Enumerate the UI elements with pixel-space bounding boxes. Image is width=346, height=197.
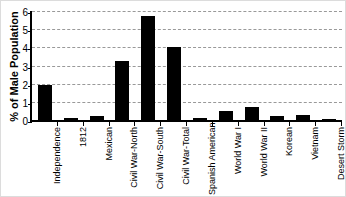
- x-category-label: Civil War-North: [128, 127, 140, 195]
- y-tick-label: 2: [12, 80, 28, 91]
- x-tick-mark: [186, 122, 187, 126]
- x-category-label: Civil War-South: [154, 127, 166, 195]
- bar: [141, 16, 155, 120]
- x-tick-mark: [315, 122, 316, 126]
- x-tick-mark: [83, 122, 84, 126]
- x-category-label: Vietnam: [309, 127, 321, 195]
- y-tick-mark: [28, 104, 32, 105]
- y-tick-label: 6: [12, 7, 28, 18]
- x-category-label: Korean: [283, 127, 295, 195]
- x-category-label: Spanish American: [206, 127, 218, 195]
- y-tick-mark: [28, 68, 32, 69]
- x-tick-mark: [238, 122, 239, 126]
- x-category-label: 1812: [77, 127, 89, 195]
- bar: [115, 61, 129, 120]
- x-tick-mark: [109, 122, 110, 126]
- y-tick-mark: [28, 86, 32, 87]
- gridline: [32, 11, 342, 12]
- bar-chart: % of Male Population 0123456 Independenc…: [0, 0, 346, 197]
- x-category-label: Independence: [51, 127, 63, 195]
- x-category-label: World War I: [232, 127, 244, 195]
- gridline: [32, 29, 342, 30]
- x-category-label: World War II: [258, 127, 270, 195]
- bar: [322, 119, 336, 120]
- bar: [219, 111, 233, 120]
- bar: [296, 115, 310, 120]
- gridline: [32, 66, 342, 67]
- x-tick-mark: [289, 122, 290, 126]
- y-tick-label: 0: [12, 116, 28, 127]
- y-tick-label: 4: [12, 43, 28, 54]
- x-tick-mark: [160, 122, 161, 126]
- x-category-label: Desert Storm: [335, 127, 346, 195]
- x-tick-mark: [341, 122, 342, 126]
- y-tick-label: 3: [12, 62, 28, 73]
- gridline: [32, 84, 342, 85]
- x-category-label: Civil War-Total: [180, 127, 192, 195]
- bar: [193, 118, 207, 120]
- bar: [90, 116, 104, 120]
- x-tick-mark: [134, 122, 135, 126]
- y-tick-mark: [28, 49, 32, 50]
- y-tick-label: 5: [12, 25, 28, 36]
- x-category-label: Mexican: [103, 127, 115, 195]
- bar: [245, 107, 259, 120]
- y-tick-mark: [28, 122, 32, 123]
- y-tick-label: 1: [12, 98, 28, 109]
- gridline: [32, 47, 342, 48]
- y-tick-mark: [28, 31, 32, 32]
- bar: [167, 47, 181, 120]
- plot-area: [30, 11, 342, 122]
- bar: [38, 85, 52, 120]
- x-tick-mark: [57, 122, 58, 126]
- bar: [270, 116, 284, 120]
- gridline: [32, 102, 342, 103]
- bar: [64, 118, 78, 120]
- y-tick-mark: [28, 13, 32, 14]
- x-tick-mark: [264, 122, 265, 126]
